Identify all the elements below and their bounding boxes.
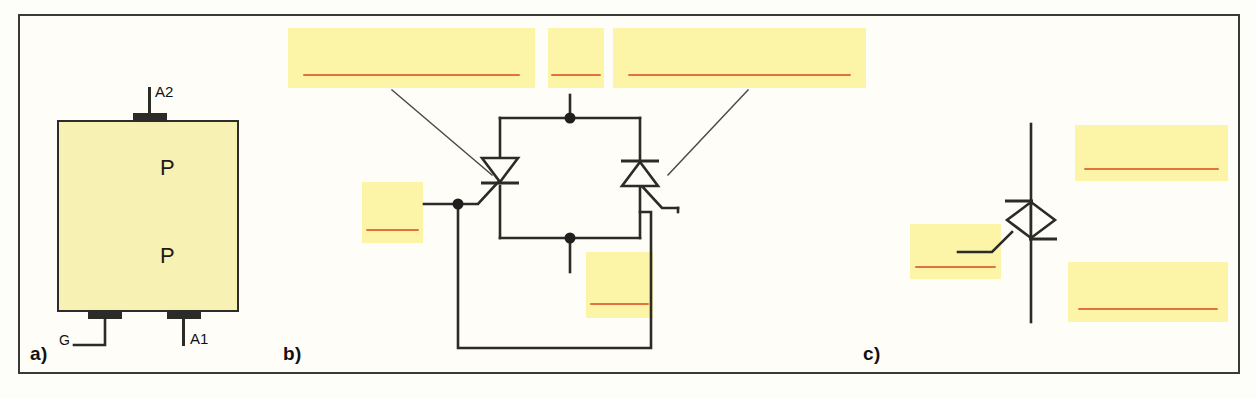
layer-label-p-upper: P bbox=[160, 155, 175, 181]
annotation-rule bbox=[366, 229, 420, 231]
annotation-rule bbox=[590, 303, 649, 305]
panel-label-a: a) bbox=[30, 343, 48, 365]
annotation-box-c-bottom-right bbox=[1068, 262, 1228, 322]
layer-label-p-lower: P bbox=[160, 243, 175, 269]
annotation-rule bbox=[915, 266, 995, 268]
panel-label-b: b) bbox=[283, 343, 302, 365]
annotation-rule bbox=[628, 74, 851, 76]
semiconductor-die bbox=[57, 120, 239, 312]
annotation-box-b-top-middle bbox=[548, 28, 604, 88]
annotation-box-b-top-right bbox=[613, 28, 866, 88]
terminal-lead-a1 bbox=[182, 318, 185, 346]
annotation-box-b-top-left bbox=[288, 28, 535, 88]
terminal-label-a1: A1 bbox=[190, 330, 208, 347]
annotation-rule bbox=[1084, 168, 1219, 170]
terminal-label-g: G bbox=[59, 332, 70, 348]
terminal-lead-a2 bbox=[148, 87, 151, 115]
panel-label-c: c) bbox=[863, 343, 881, 365]
terminal-pad-g bbox=[88, 311, 122, 319]
annotation-box-c-left bbox=[910, 224, 1001, 279]
terminal-label-a2: A2 bbox=[155, 83, 173, 100]
annotation-box-b-bottom bbox=[586, 252, 653, 318]
figure-canvas: A2 A1 G P P a) b) c) bbox=[0, 0, 1256, 398]
annotation-rule bbox=[1078, 308, 1219, 310]
annotation-box-b-left bbox=[362, 182, 423, 243]
annotation-rule bbox=[303, 74, 520, 76]
annotation-box-c-top-right bbox=[1075, 125, 1228, 181]
annotation-rule bbox=[551, 74, 600, 76]
